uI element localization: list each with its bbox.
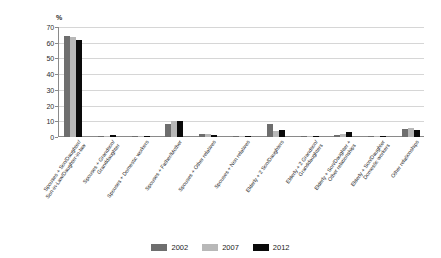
x-axis-label-line: Spouses + Son/Daughter/ <box>39 139 82 196</box>
bar-group <box>334 27 352 137</box>
bar <box>313 136 319 137</box>
bar-group <box>132 27 150 137</box>
legend-swatch <box>253 244 269 251</box>
x-axis-label: Spouses + Non relatives <box>213 139 251 190</box>
chart-legend: 200220072012 <box>0 243 441 252</box>
bar-group <box>301 27 319 137</box>
x-axis-label: Spouses + Other relatives <box>177 139 217 193</box>
x-axis-label-line: Spouses + Other relatives <box>177 139 217 193</box>
bar <box>346 132 352 138</box>
bar <box>177 121 183 137</box>
legend-item: 2007 <box>202 243 239 252</box>
x-axis-label-line: Other relationships <box>389 139 420 179</box>
bar <box>76 40 82 137</box>
x-axis-label: Spouses + Son/Daughter/Son-in-Law/Daught… <box>39 139 87 200</box>
bar-group <box>98 27 116 137</box>
legend-swatch <box>151 244 167 251</box>
bar-group <box>199 27 217 137</box>
x-axis-label-line: Spouses + Father/Mother <box>144 139 183 192</box>
x-axis-label-line: Spouses + Non relatives <box>213 139 251 190</box>
bar <box>245 136 251 137</box>
legend-swatch <box>202 244 218 251</box>
x-axis-label: Elderly + 2 Son/Daughters <box>244 139 285 193</box>
bar-group <box>368 27 386 137</box>
bar <box>144 136 150 137</box>
legend-label: 2002 <box>171 243 188 252</box>
y-axis-tick-label: 50 <box>47 55 58 62</box>
x-axis-label: Spouses + Father/Mother <box>144 139 183 192</box>
y-axis-tick-label: 60 <box>47 39 58 46</box>
plot-area: 010203040506070 <box>58 27 424 137</box>
bar-group <box>233 27 251 137</box>
bar <box>279 130 285 137</box>
y-axis-tick-label: 70 <box>47 24 58 31</box>
x-axis-labels: Spouses + Son/Daughter/Son-in-Law/Daught… <box>58 139 424 225</box>
x-axis-label: Other relationships <box>389 139 420 179</box>
bar-groups <box>58 27 424 137</box>
legend-label: 2012 <box>273 243 290 252</box>
bar-group <box>64 27 82 137</box>
y-axis-tick-label: 20 <box>47 102 58 109</box>
bar-group <box>402 27 420 137</box>
y-axis-unit-label: % <box>56 14 62 21</box>
bar <box>380 136 386 137</box>
x-axis-label-line: Son-in-Law/Daughter-in-law <box>44 143 87 200</box>
bar-chart: % 010203040506070 Spouses + Son/Daughter… <box>0 0 441 258</box>
y-axis-tick-label: 0 <box>50 134 58 141</box>
legend-label: 2007 <box>222 243 239 252</box>
bar-group <box>165 27 183 137</box>
bar <box>110 135 116 137</box>
bar <box>211 135 217 137</box>
bar-group <box>267 27 285 137</box>
legend-item: 2002 <box>151 243 188 252</box>
y-axis-tick-label: 10 <box>47 118 58 125</box>
y-axis-tick-label: 40 <box>47 71 58 78</box>
x-axis-label-line: Elderly + 2 Son/Daughters <box>244 139 285 193</box>
bar <box>414 130 420 137</box>
legend-item: 2012 <box>253 243 290 252</box>
y-axis-tick-label: 30 <box>47 86 58 93</box>
